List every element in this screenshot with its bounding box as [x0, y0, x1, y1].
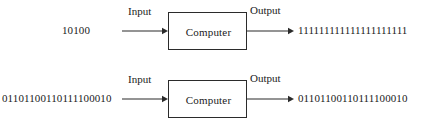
input-label-bottom: Input [128, 74, 151, 85]
output-arrow-bottom [247, 94, 294, 104]
output-value-top: 111111111111111111111 [298, 25, 407, 36]
output-value-bottom: 01101100110111100010 [298, 93, 408, 104]
input-value-bottom: 01101100110111100010 [2, 93, 112, 104]
output-label-bottom: Output [250, 73, 281, 84]
diagram-bottom: 01101100110111100010 Input Computer Outp… [0, 76, 439, 136]
input-label-top: Input [128, 6, 151, 17]
output-arrow-top [247, 26, 294, 36]
computer-box-label-top: Computer [169, 13, 248, 51]
input-arrow-top [122, 26, 168, 36]
output-label-top: Output [250, 5, 281, 16]
figure-container: 10100 Input Computer Output 111111111111… [0, 0, 439, 136]
computer-box-bottom: Computer [168, 80, 247, 118]
input-arrow-bottom [122, 94, 168, 104]
input-value-top: 10100 [62, 25, 90, 36]
computer-box-label-bottom: Computer [169, 81, 248, 119]
computer-box-top: Computer [168, 12, 247, 50]
diagram-top: 10100 Input Computer Output 111111111111… [0, 8, 439, 68]
